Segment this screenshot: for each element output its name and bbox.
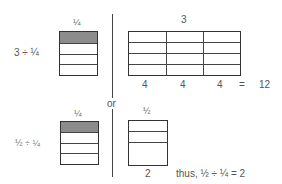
row-divider <box>129 131 167 132</box>
column-count-2: 4 <box>180 79 186 91</box>
row-divider <box>61 132 98 133</box>
row-divider <box>60 64 97 65</box>
half-box <box>128 120 168 166</box>
column-count-3: 4 <box>217 79 223 91</box>
quarter-label-bottom: ¼ <box>74 108 82 118</box>
row-divider <box>60 54 97 55</box>
three-wholes-grid <box>128 31 241 76</box>
quarter-fraction-box-top <box>59 31 98 76</box>
row-divider <box>129 142 167 143</box>
shaded-quarter <box>61 122 98 132</box>
vertical-divider-lower <box>112 109 113 177</box>
row-divider <box>61 143 98 144</box>
row-divider <box>61 153 98 154</box>
column-divider <box>203 32 204 75</box>
column-count-1: 4 <box>142 79 148 91</box>
column-divider <box>166 32 167 75</box>
row-divider <box>129 42 240 43</box>
row-divider <box>129 64 240 65</box>
half-label: ½ <box>143 106 151 116</box>
quarter-label-top: ¼ <box>73 17 81 27</box>
quarter-fraction-box-bottom <box>60 121 99 165</box>
result-twelve: 12 <box>259 79 270 91</box>
expression-three-divided-by-quarter: 3 ÷ ¼ <box>14 47 39 59</box>
vertical-divider-upper <box>112 14 113 98</box>
expression-half-divided-by-quarter: ½ ÷ ¼ <box>15 138 40 148</box>
conclusion-text: thus, ½ ÷ ¼ = 2 <box>176 168 245 180</box>
shaded-quarter <box>60 32 97 43</box>
row-divider <box>129 53 240 54</box>
row-divider <box>60 43 97 44</box>
whole-count-label: 3 <box>181 14 187 26</box>
count-two: 2 <box>145 168 151 180</box>
equals-sign: = <box>239 79 245 91</box>
